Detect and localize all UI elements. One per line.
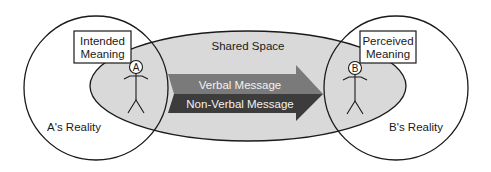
communication-diagram: Shared Space Verbal Message Non-Verbal M… bbox=[0, 0, 491, 172]
person-a-marker: A bbox=[133, 62, 140, 73]
perceived-meaning-box: Perceived Meaning bbox=[360, 31, 416, 63]
b-reality-label: B's Reality bbox=[389, 121, 443, 133]
intended-meaning-box: Intended Meaning bbox=[74, 31, 131, 63]
a-reality-label: A's Reality bbox=[47, 121, 101, 133]
perceived-meaning-line2: Meaning bbox=[366, 48, 410, 60]
shared-space-label: Shared Space bbox=[212, 40, 285, 52]
verbal-message-label: Verbal Message bbox=[199, 79, 281, 91]
intended-meaning-line1: Intended bbox=[80, 35, 125, 47]
intended-meaning-line2: Meaning bbox=[80, 48, 124, 60]
nonverbal-message-label: Non-Verbal Message bbox=[186, 98, 293, 110]
perceived-meaning-line1: Perceived bbox=[362, 35, 413, 47]
person-b-marker: B bbox=[352, 63, 359, 74]
